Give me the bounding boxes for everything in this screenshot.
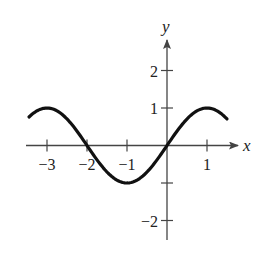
- x-tick-label: −3: [38, 156, 55, 173]
- x-axis-label: x: [242, 136, 251, 155]
- axes: [26, 40, 238, 240]
- x-tick-label: 1: [203, 156, 211, 173]
- x-axis-ticks: −3−2−11: [38, 140, 211, 173]
- y-tick-label: 1: [150, 100, 158, 117]
- y-axis-label: y: [160, 17, 170, 36]
- y-tick-label: 2: [150, 63, 158, 80]
- x-tick-label: −2: [78, 156, 95, 173]
- sine-graph: −3−2−11 −212 x y: [0, 0, 263, 254]
- y-tick-label: −2: [141, 213, 158, 230]
- x-tick-label: −1: [118, 156, 135, 173]
